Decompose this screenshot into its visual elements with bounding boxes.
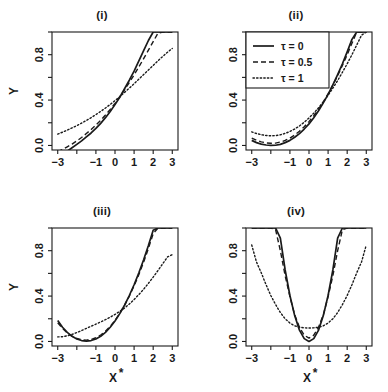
curve-solid — [58, 228, 173, 341]
x-axis-label-superscript: * — [119, 366, 124, 380]
x-tick-label: 3 — [169, 156, 175, 168]
y-axis-ticks: 0.00.40.8 — [33, 228, 52, 349]
y-tick-label: 0.4 — [33, 92, 45, 108]
x-tick-label: 2 — [150, 156, 156, 168]
x-tick-label: 2 — [150, 352, 156, 364]
x-axis-ticks: −3−10123 — [245, 346, 369, 364]
x-axis-ticks: −3−10123 — [245, 150, 369, 168]
y-tick-label: 0.4 — [33, 288, 45, 304]
y-tick-label: 0.0 — [33, 138, 45, 153]
x-tick-label: 0 — [112, 352, 118, 364]
x-tick-label: −3 — [51, 352, 64, 364]
curve-dashed — [58, 228, 173, 340]
legend-label-dotted: τ = 1 — [281, 72, 304, 84]
x-tick-label: 0 — [306, 352, 312, 364]
figure-panel-grid: (i)−3−101230.00.40.8Y(ii)−3−101230.00.40… — [0, 0, 388, 392]
curve-dashed — [58, 32, 173, 152]
y-tick-label: 0.0 — [33, 334, 45, 349]
curves-iii — [58, 228, 173, 341]
y-tick-label: 0.8 — [33, 243, 45, 258]
x-tick-label: 2 — [344, 156, 350, 168]
x-tick-label: −1 — [284, 156, 297, 168]
plot-frame — [52, 228, 178, 346]
panel-ii: (ii)−3−101230.00.40.8τ = 0τ = 0.5τ = 1 — [194, 0, 388, 196]
curve-dotted — [252, 245, 367, 328]
curve-solid — [252, 228, 367, 341]
x-axis-label: X* — [303, 366, 318, 385]
y-tick-label: 0.8 — [227, 243, 239, 258]
panel-iii: (iii)−3−101230.00.40.8YX* — [0, 196, 194, 392]
x-axis-label-superscript: * — [313, 366, 318, 380]
x-axis-ticks: −3−10123 — [51, 346, 175, 364]
x-tick-label: 0 — [112, 156, 118, 168]
y-tick-label: 0.8 — [33, 47, 45, 62]
y-tick-label: 0.4 — [227, 92, 239, 108]
y-tick-label: 0.4 — [227, 288, 239, 304]
legend: τ = 0τ = 0.5τ = 1 — [246, 32, 329, 88]
curve-solid — [58, 32, 173, 157]
x-tick-label: −3 — [245, 156, 258, 168]
panel-title-iii: (iii) — [26, 206, 178, 218]
x-tick-label: 1 — [325, 156, 331, 168]
x-axis-label: X* — [109, 366, 124, 385]
y-axis-ticks: 0.00.40.8 — [227, 32, 246, 153]
x-tick-label: 3 — [169, 352, 175, 364]
panel-title-i: (i) — [26, 10, 178, 22]
plot-area-iii: −3−101230.00.40.8YX* — [0, 196, 194, 392]
curve-dashed — [252, 228, 367, 338]
y-axis-label: Y — [7, 283, 21, 291]
x-tick-label: 1 — [131, 156, 137, 168]
y-tick-label: 0.0 — [227, 138, 239, 153]
legend-label-solid: τ = 0 — [281, 40, 304, 52]
curve-dotted — [58, 255, 173, 337]
plot-area-ii: −3−101230.00.40.8τ = 0τ = 0.5τ = 1 — [194, 0, 388, 196]
curves-i — [58, 32, 173, 157]
x-tick-label: 3 — [363, 352, 369, 364]
x-tick-label: 1 — [131, 352, 137, 364]
curves-iv — [252, 228, 367, 341]
x-axis-ticks: −3−10123 — [51, 150, 175, 168]
x-tick-label: −3 — [245, 352, 258, 364]
x-tick-label: −1 — [90, 156, 103, 168]
y-axis-label: Y — [7, 87, 21, 95]
x-tick-label: −1 — [90, 352, 103, 364]
x-axis-label-text: X — [109, 371, 117, 385]
x-tick-label: 2 — [344, 352, 350, 364]
y-tick-label: 0.0 — [227, 334, 239, 349]
y-tick-label: 0.8 — [227, 47, 239, 62]
panel-title-ii: (ii) — [220, 10, 372, 22]
plot-area-iv: −3−101230.00.40.8X* — [194, 196, 388, 392]
panel-i: (i)−3−101230.00.40.8Y — [0, 0, 194, 196]
x-tick-label: −1 — [284, 352, 297, 364]
plot-frame — [52, 32, 178, 150]
x-tick-label: 3 — [363, 156, 369, 168]
plot-area-i: −3−101230.00.40.8Y — [0, 0, 194, 196]
curve-dotted — [58, 48, 173, 134]
panel-iv: (iv)−3−101230.00.40.8X* — [194, 196, 388, 392]
x-tick-label: 1 — [325, 352, 331, 364]
y-axis-ticks: 0.00.40.8 — [227, 228, 246, 349]
x-tick-label: −3 — [51, 156, 64, 168]
legend-label-dashed: τ = 0.5 — [281, 56, 312, 68]
x-axis-label-text: X — [303, 371, 311, 385]
panel-title-iv: (iv) — [220, 206, 372, 218]
y-axis-ticks: 0.00.40.8 — [33, 32, 52, 153]
x-tick-label: 0 — [306, 156, 312, 168]
